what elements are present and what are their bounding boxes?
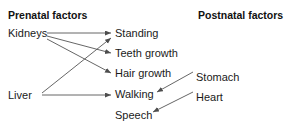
node-speech: Speech [115, 110, 152, 121]
node-stomach: Stomach [196, 72, 239, 83]
diagram-canvas: Prenatal factors Postnatal factors Kidne… [0, 0, 286, 128]
node-walking: Walking [115, 89, 154, 100]
node-hair-growth: Hair growth [115, 68, 171, 79]
node-kidneys: Kidneys [8, 28, 47, 39]
heading-postnatal: Postnatal factors [198, 10, 283, 21]
node-teeth-growth: Teeth growth [115, 48, 178, 59]
edge-liver-to-standing [42, 38, 111, 93]
edge-heart-to-speech [153, 92, 193, 112]
node-liver: Liver [8, 90, 32, 101]
node-heart: Heart [196, 92, 223, 103]
heading-prenatal: Prenatal factors [8, 10, 87, 21]
node-standing: Standing [115, 28, 158, 39]
